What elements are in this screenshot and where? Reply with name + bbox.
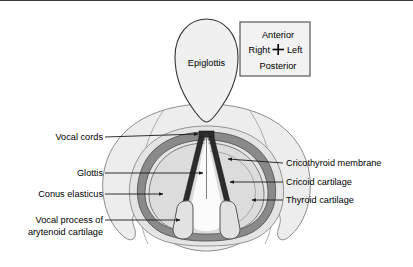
left-labels: Vocal cords Glottis Conus elasticus Voca… — [28, 132, 104, 237]
label-vocal-process-line1: Vocal process of — [36, 215, 104, 225]
figure-canvas: Epiglottis Anterior Right Left Posterior — [0, 0, 413, 267]
label-thyroid-cartilage: Thyroid cartilage — [286, 195, 354, 205]
orientation-right-label: Right — [249, 45, 271, 55]
orientation-box: Anterior Right Left Posterior — [240, 22, 310, 76]
right-labels: Cricothyroid membrane Cricoid cartilage … — [286, 158, 381, 205]
label-cricothyroid-membrane: Cricothyroid membrane — [286, 158, 381, 168]
orientation-posterior-label: Posterior — [260, 61, 297, 71]
label-cricoid-cartilage: Cricoid cartilage — [286, 177, 352, 187]
label-conus-elasticus: Conus elasticus — [38, 189, 103, 199]
orientation-anterior-label: Anterior — [262, 30, 294, 40]
epiglottis-label: Epiglottis — [188, 58, 226, 68]
label-vocal-cords: Vocal cords — [56, 132, 104, 142]
larynx-diagram: Epiglottis Anterior Right Left Posterior — [0, 1, 413, 267]
label-vocal-process-line2: arytenoid cartilage — [28, 227, 103, 237]
orientation-left-label: Left — [287, 45, 303, 55]
label-glottis: Glottis — [77, 168, 103, 178]
